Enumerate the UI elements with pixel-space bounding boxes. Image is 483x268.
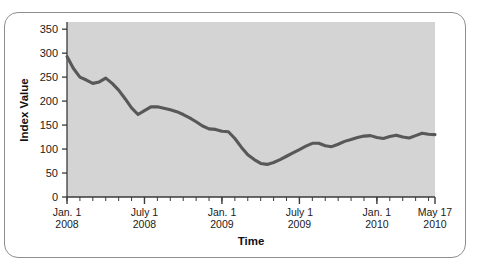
y-axis-title: Index Value bbox=[18, 78, 30, 141]
y-tick-label: 50 bbox=[46, 167, 58, 179]
x-axis-title: Time bbox=[238, 235, 265, 247]
y-tick-label: 350 bbox=[40, 23, 58, 35]
line-chart: 050100150200250300350 Jan. 12008July 120… bbox=[0, 0, 483, 268]
x-tick-label-line2: 2009 bbox=[288, 218, 312, 230]
x-tick-label-line1: Jan. 1 bbox=[53, 206, 82, 218]
x-tick-label-line2: 2010 bbox=[365, 218, 389, 230]
chart-figure: 050100150200250300350 Jan. 12008July 120… bbox=[0, 0, 483, 268]
y-tick-group bbox=[62, 29, 67, 197]
plot-background bbox=[67, 22, 435, 197]
x-tick-label-line1: Jan. 1 bbox=[208, 206, 237, 218]
x-tick-label-line1: July 1 bbox=[286, 206, 314, 218]
x-tick-label-line2: 2008 bbox=[133, 218, 157, 230]
x-tick-label-line1: July 1 bbox=[131, 206, 159, 218]
x-tick-label-line2: 2010 bbox=[423, 218, 447, 230]
x-tick-label-group: Jan. 12008July 12008Jan. 12009July 12009… bbox=[53, 206, 453, 230]
y-tick-label: 150 bbox=[40, 119, 58, 131]
x-major-tick-group bbox=[67, 197, 435, 204]
y-tick-label-group: 050100150200250300350 bbox=[40, 23, 58, 203]
y-tick-label: 0 bbox=[52, 191, 58, 203]
x-tick-label-line2: 2009 bbox=[210, 218, 234, 230]
y-tick-label: 100 bbox=[40, 143, 58, 155]
y-tick-label: 300 bbox=[40, 47, 58, 59]
x-tick-label-line1: Jan. 1 bbox=[363, 206, 392, 218]
plot-wrapper: 050100150200250300350 Jan. 12008July 120… bbox=[0, 0, 483, 268]
x-tick-label-line1: May 17 bbox=[418, 206, 453, 218]
y-tick-label: 250 bbox=[40, 71, 58, 83]
y-tick-label: 200 bbox=[40, 95, 58, 107]
x-tick-label-line2: 2008 bbox=[55, 218, 79, 230]
